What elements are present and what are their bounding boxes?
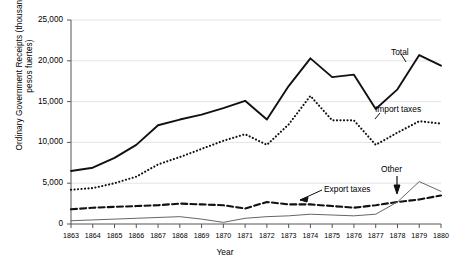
- series-line-other: [71, 182, 441, 223]
- y-tick-label: 15,000: [19, 97, 63, 106]
- series-line-export-taxes: [71, 195, 441, 209]
- y-tick-label: 5,000: [19, 178, 63, 187]
- series-annotation-import-taxes: Import taxes: [375, 104, 421, 114]
- x-tick-label: 1864: [81, 232, 105, 240]
- x-tick-label: 1873: [277, 232, 301, 240]
- x-tick-label: 1867: [146, 232, 170, 240]
- chart-figure: Ordinary Government Receipts (thousands …: [0, 0, 450, 263]
- x-tick-label: 1868: [168, 232, 192, 240]
- chart-plot-area: [0, 0, 450, 263]
- x-tick-label: 1865: [103, 232, 127, 240]
- x-tick-label: 1876: [342, 232, 366, 240]
- y-tick-label: 0: [19, 219, 63, 228]
- series-annotation-export-taxes: Export taxes: [324, 184, 371, 194]
- other-arrowhead: [394, 185, 400, 194]
- x-tick-label: 1879: [407, 232, 431, 240]
- x-tick-label: 1866: [124, 232, 148, 240]
- series-annotation-other: Other: [381, 164, 402, 174]
- x-tick-label: 1872: [255, 232, 279, 240]
- x-tick-label: 1878: [385, 232, 409, 240]
- x-tick-label: 1875: [320, 232, 344, 240]
- x-tick-label: 1869: [190, 232, 214, 240]
- x-tick-label: 1863: [59, 232, 83, 240]
- x-tick-label: 1871: [233, 232, 257, 240]
- x-tick-label: 1874: [298, 232, 322, 240]
- x-tick-label: 1880: [429, 232, 450, 240]
- y-tick-label: 20,000: [19, 56, 63, 65]
- y-tick-label: 10,000: [19, 137, 63, 146]
- series-annotation-total: Total: [391, 47, 409, 57]
- x-axis-title: Year: [0, 247, 450, 257]
- y-tick-label: 25,000: [19, 15, 63, 24]
- x-tick-label: 1870: [211, 232, 235, 240]
- x-tick-label: 1877: [364, 232, 388, 240]
